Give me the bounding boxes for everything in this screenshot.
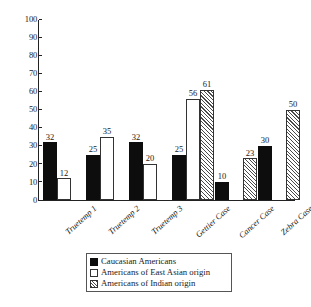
legend-item[interactable]: Americans of Indian origin <box>90 278 228 289</box>
legend-label: Caucasian Americans <box>101 257 176 266</box>
bar-slot: 30 <box>258 146 272 200</box>
bar[interactable] <box>186 99 200 200</box>
legend-item[interactable]: Americans of East Asian origin <box>90 267 228 278</box>
bar-slot: 10 <box>215 182 229 200</box>
bar-slot: 25 <box>172 155 186 200</box>
y-tick-label: 10 <box>29 178 39 187</box>
x-axis-labels: Truetemp 1Truetemp 2Truetemp 3Gettier Ca… <box>38 201 295 247</box>
bar-chart-figure: 0102030405060708090100 32122535322025566… <box>0 0 311 307</box>
bar[interactable] <box>258 146 272 200</box>
bar-value-label: 50 <box>289 100 298 109</box>
bar-value-label: 12 <box>60 169 69 178</box>
y-tick-label: 50 <box>29 105 39 114</box>
legend-item[interactable]: Caucasian Americans <box>90 256 228 267</box>
bar[interactable] <box>215 182 229 200</box>
bar-value-label: 20 <box>146 154 155 163</box>
bar[interactable] <box>172 155 186 200</box>
x-axis-label: Gettier Case <box>194 204 232 239</box>
bar-slot: 32 <box>129 142 143 200</box>
bar-value-label: 32 <box>46 133 55 142</box>
y-tick-label: 60 <box>29 87 39 96</box>
bar-value-label: 25 <box>89 145 98 154</box>
plot-area: 0102030405060708090100 32122535322025566… <box>38 20 295 201</box>
bar-slot: 50 <box>286 110 300 201</box>
legend-label: Americans of Indian origin <box>101 279 195 288</box>
x-axis-label: Truetemp 3 <box>150 204 184 236</box>
bar-value-label: 23 <box>246 149 255 158</box>
bar[interactable] <box>57 178 71 200</box>
legend-label: Americans of East Asian origin <box>101 268 210 277</box>
legend-swatch-icon <box>90 269 98 277</box>
x-axis-label: Truetemp 2 <box>107 204 141 236</box>
legend-swatch-icon <box>90 280 98 288</box>
bar-group: 1023 <box>215 20 258 200</box>
bar-value-label: 56 <box>189 89 198 98</box>
bar-slot: 35 <box>100 137 114 200</box>
bar[interactable] <box>129 142 143 200</box>
bar-value-label: 35 <box>103 127 112 136</box>
bar-group: 3212 <box>43 20 86 200</box>
bar[interactable] <box>243 158 257 200</box>
y-tick-label: 70 <box>29 69 39 78</box>
bar-group: 3220 <box>129 20 172 200</box>
bar[interactable] <box>43 142 57 200</box>
bar-slot: 25 <box>86 155 100 200</box>
bar-group: 255661 <box>172 20 215 200</box>
bar-value-label: 32 <box>132 133 141 142</box>
bar-slot: 56 <box>186 99 200 200</box>
legend-swatch-icon <box>90 258 98 266</box>
y-tick-label: 20 <box>29 160 39 169</box>
bar-value-label: 61 <box>203 80 212 89</box>
bar-slot: 23 <box>243 158 257 200</box>
bar-slot: 61 <box>200 90 214 200</box>
x-axis-label: Cancer Case <box>237 204 276 240</box>
bar-slot: 20 <box>143 164 157 200</box>
bar[interactable] <box>100 137 114 200</box>
x-axis-label: Truetemp 1 <box>64 204 98 236</box>
y-tick-label: 100 <box>25 15 39 24</box>
x-axis-label: Zebra Case <box>279 204 311 237</box>
bar-groups: 32122535322025566110233050 <box>39 20 295 200</box>
bar[interactable] <box>86 155 100 200</box>
bar-slot: 12 <box>57 178 71 200</box>
y-tick-label: 80 <box>29 51 39 60</box>
bar[interactable] <box>200 90 214 200</box>
bar-group: 2535 <box>86 20 129 200</box>
bar-value-label: 30 <box>261 136 270 145</box>
y-tick-label: 40 <box>29 123 39 132</box>
bar[interactable] <box>286 110 300 201</box>
bar-value-label: 25 <box>175 145 184 154</box>
chart-legend: Caucasian AmericansAmericans of East Asi… <box>86 253 232 292</box>
y-tick-label: 90 <box>29 33 39 42</box>
y-tick-label: 30 <box>29 141 39 150</box>
bar-group: 3050 <box>258 20 301 200</box>
bar-slot: 32 <box>43 142 57 200</box>
bar[interactable] <box>143 164 157 200</box>
bar-value-label: 10 <box>218 172 227 181</box>
